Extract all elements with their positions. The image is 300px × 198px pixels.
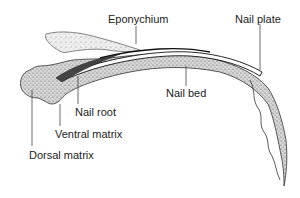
label-dorsal-matrix: Dorsal matrix: [29, 149, 94, 161]
nail-illustration: [0, 0, 300, 198]
label-nail-bed: Nail bed: [166, 87, 206, 99]
label-nail-root: Nail root: [75, 106, 116, 118]
label-eponychium: Eponychium: [108, 13, 169, 25]
label-ventral-matrix: Ventral matrix: [55, 128, 122, 140]
label-nail-plate: Nail plate: [235, 13, 281, 25]
eponychium-tissue: [45, 32, 140, 53]
nail-anatomy-diagram: Eponychium Nail plate Nail bed Nail root…: [0, 0, 300, 198]
